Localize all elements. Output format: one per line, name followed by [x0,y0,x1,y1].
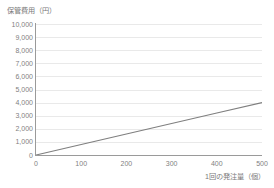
y-axis-tick-label: 2,000 [0,125,33,132]
x-axis-tick-label: 0 [21,160,51,167]
x-axis-tick-label: 200 [111,160,141,167]
y-axis-tick-label: 9,000 [0,34,33,41]
y-axis-tick-label: 7,000 [0,60,33,67]
y-axis-tick-label: 1,000 [0,138,33,145]
x-axis-tick-label: 400 [202,160,232,167]
y-axis-tick-label: 10,000 [0,21,33,28]
x-axis-tick-label: 300 [157,160,187,167]
x-axis-line [36,155,262,156]
x-axis-tick-label: 100 [66,160,96,167]
line-chart: 保管費用（円） 01,0002,0003,0004,0005,0006,0007… [0,0,274,188]
series-line-storage-cost [36,24,262,155]
y-axis-tick-label: 4,000 [0,99,33,106]
y-axis-tick-label: 8,000 [0,47,33,54]
y-axis-line [35,23,36,156]
plot-area [36,24,262,155]
y-axis-tick-label: 0 [0,152,33,159]
x-axis-title: 1回の発注量（個） [205,172,265,181]
y-axis-tick-label: 3,000 [0,112,33,119]
x-axis-tick-label: 500 [247,160,274,167]
y-axis-tick-label: 6,000 [0,73,33,80]
y-axis-tick-label: 5,000 [0,86,33,93]
